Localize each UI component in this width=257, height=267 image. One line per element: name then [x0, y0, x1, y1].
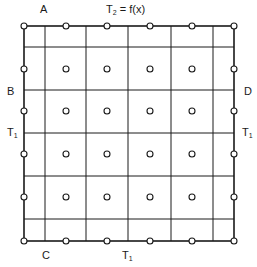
- grid-node-circle: [147, 23, 153, 29]
- grid-node-circle: [147, 238, 153, 244]
- grid-node-circle: [147, 151, 153, 157]
- grid-node-circle: [189, 238, 195, 244]
- grid-node-circle: [189, 23, 195, 29]
- grid-node-circle: [21, 23, 27, 29]
- grid-node-circle: [147, 108, 153, 114]
- label-corner-a: A: [40, 3, 47, 15]
- grid-node-circle: [189, 108, 195, 114]
- left-boundary-subscript: 1: [14, 132, 18, 139]
- label-top-boundary-condition: T2 = f(x): [106, 3, 145, 19]
- grid-node-circle: [63, 23, 69, 29]
- top-boundary-equation: = f(x): [117, 3, 145, 15]
- left-boundary-symbol: T: [7, 126, 14, 138]
- label-left-boundary-condition: T1: [7, 126, 18, 142]
- bottom-boundary-symbol: T: [122, 249, 129, 261]
- grid-node-circle: [147, 194, 153, 200]
- right-boundary-symbol: T: [242, 126, 249, 138]
- grid-node-circle: [63, 66, 69, 72]
- label-corner-d: D: [244, 85, 252, 97]
- grid-node-circle: [21, 66, 27, 72]
- label-right-boundary-condition: T1: [242, 126, 253, 142]
- grid-node-circle: [147, 66, 153, 72]
- grid-node-circle: [21, 108, 27, 114]
- label-corner-b: B: [7, 85, 14, 97]
- grid-node-circle: [189, 151, 195, 157]
- grid-node-circle: [104, 194, 110, 200]
- grid-node-circle: [63, 108, 69, 114]
- grid-node-circle: [231, 238, 237, 244]
- grid-node-circle: [63, 238, 69, 244]
- grid-node-circle: [21, 151, 27, 157]
- grid-node-circle: [231, 66, 237, 72]
- grid-node-circle: [21, 238, 27, 244]
- grid-node-circle: [189, 194, 195, 200]
- grid-node-circle: [231, 151, 237, 157]
- grid-diagram: [0, 0, 257, 267]
- grid-node-circle: [231, 23, 237, 29]
- grid-node-circle: [104, 151, 110, 157]
- label-corner-c: C: [42, 249, 50, 261]
- grid-node-circle: [104, 66, 110, 72]
- right-boundary-subscript: 1: [249, 132, 253, 139]
- grid-node-circle: [63, 194, 69, 200]
- grid-node-circle: [231, 194, 237, 200]
- label-bottom-boundary-condition: T1: [122, 249, 133, 265]
- grid-node-circle: [104, 238, 110, 244]
- top-boundary-symbol: T: [106, 3, 113, 15]
- bottom-boundary-subscript: 1: [129, 255, 133, 262]
- grid-node-circle: [21, 194, 27, 200]
- grid-node-circle: [104, 23, 110, 29]
- grid-node-circle: [63, 151, 69, 157]
- grid-node-circle: [231, 108, 237, 114]
- grid-node-circle: [189, 66, 195, 72]
- grid-node-circle: [104, 108, 110, 114]
